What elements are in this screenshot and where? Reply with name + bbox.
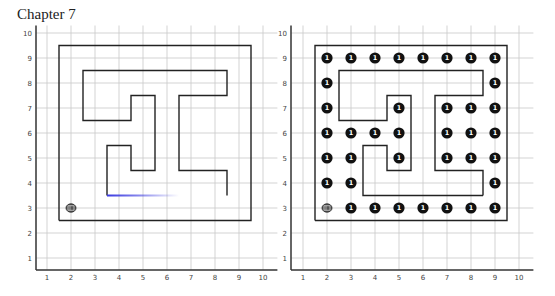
token: 1 (321, 77, 332, 88)
y-tick-label: 5 (283, 155, 287, 163)
token: 1 (465, 102, 476, 113)
x-tick-label: 3 (349, 274, 353, 282)
x-tick-label: 4 (117, 274, 122, 282)
x-tick-label: 10 (515, 274, 524, 282)
svg-text:1: 1 (325, 54, 330, 62)
svg-text:1: 1 (373, 54, 378, 62)
svg-text:1: 1 (469, 104, 474, 112)
svg-text:1: 1 (445, 129, 450, 137)
token: 1 (489, 127, 500, 138)
token: 1 (393, 52, 404, 63)
x-tick-label: 5 (397, 274, 401, 282)
y-tick-label: 1 (283, 255, 287, 263)
y-tick-label: 6 (28, 130, 33, 138)
token: 1 (489, 77, 500, 88)
svg-text:1: 1 (469, 54, 474, 62)
svg-text:1: 1 (349, 179, 354, 187)
y-tick-label: 6 (283, 130, 288, 138)
token: 1 (345, 127, 356, 138)
svg-text:1: 1 (469, 154, 474, 162)
svg-text:1: 1 (421, 204, 426, 212)
svg-text:1: 1 (421, 54, 426, 62)
y-tick-label: 7 (28, 105, 32, 113)
svg-text:1: 1 (325, 154, 330, 162)
y-tick-label: 10 (23, 30, 32, 38)
x-tick-label: 1 (45, 274, 49, 282)
svg-text:1: 1 (349, 154, 354, 162)
maze-figure: 1234567891012345678910 12345678910123456… (0, 0, 555, 296)
token: 1 (345, 177, 356, 188)
token: 1 (369, 202, 380, 213)
token: 1 (441, 52, 452, 63)
token: 1 (393, 127, 404, 138)
token: 1 (345, 202, 356, 213)
svg-text:1: 1 (493, 79, 498, 87)
token: 1 (345, 152, 356, 163)
svg-text:1: 1 (469, 129, 474, 137)
x-tick-label: 8 (213, 274, 217, 282)
y-tick-label: 2 (28, 230, 32, 238)
svg-text:1: 1 (373, 204, 378, 212)
token: 1 (465, 52, 476, 63)
token: 1 (465, 202, 476, 213)
svg-text:1: 1 (397, 54, 402, 62)
svg-text:1: 1 (349, 204, 354, 212)
token: 1 (393, 152, 404, 163)
x-tick-label: 1 (301, 274, 305, 282)
y-tick-label: 3 (28, 205, 32, 213)
x-tick-label: 5 (141, 274, 145, 282)
y-tick-label: 10 (278, 30, 287, 38)
svg-text:1: 1 (493, 129, 498, 137)
robot-trail (107, 195, 179, 197)
x-tick-label: 6 (421, 274, 426, 282)
token: 1 (321, 127, 332, 138)
token: 1 (369, 127, 380, 138)
x-tick-label: 7 (445, 274, 449, 282)
token: 1 (441, 127, 452, 138)
x-tick-label: 10 (259, 274, 268, 282)
svg-text:1: 1 (349, 54, 354, 62)
token: 1 (321, 102, 332, 113)
robot-icon (66, 204, 76, 212)
y-tick-label: 5 (28, 155, 32, 163)
svg-text:1: 1 (493, 179, 498, 187)
y-tick-label: 1 (28, 255, 32, 263)
y-tick-label: 9 (283, 55, 287, 63)
svg-text:1: 1 (325, 79, 330, 87)
x-tick-label: 9 (493, 274, 497, 282)
token: 1 (489, 102, 500, 113)
svg-text:1: 1 (325, 129, 330, 137)
svg-text:1: 1 (445, 204, 450, 212)
token: 1 (369, 52, 380, 63)
token: 1 (345, 52, 356, 63)
y-tick-label: 4 (28, 180, 33, 188)
x-tick-label: 7 (189, 274, 193, 282)
y-tick-label: 2 (283, 230, 287, 238)
token: 1 (417, 202, 428, 213)
svg-text:1: 1 (445, 54, 450, 62)
y-tick-label: 8 (28, 80, 32, 88)
token: 1 (441, 102, 452, 113)
svg-text:1: 1 (493, 54, 498, 62)
x-tick-label: 2 (325, 274, 329, 282)
y-tick-label: 7 (283, 105, 287, 113)
token: 1 (489, 52, 500, 63)
svg-text:1: 1 (397, 204, 402, 212)
token: 1 (441, 202, 452, 213)
svg-text:1: 1 (325, 104, 330, 112)
svg-text:1: 1 (493, 204, 498, 212)
svg-text:1: 1 (469, 204, 474, 212)
maze-grid-right: 1234567891012345678910111111111111111111… (278, 26, 533, 283)
x-tick-label: 9 (237, 274, 241, 282)
x-tick-label: 6 (165, 274, 170, 282)
y-tick-label: 9 (28, 55, 32, 63)
token: 1 (321, 177, 332, 188)
svg-text:1: 1 (373, 129, 378, 137)
svg-text:1: 1 (493, 104, 498, 112)
y-tick-label: 4 (283, 180, 288, 188)
svg-text:1: 1 (445, 154, 450, 162)
y-tick-label: 8 (283, 80, 287, 88)
y-tick-label: 3 (283, 205, 287, 213)
svg-text:1: 1 (397, 129, 402, 137)
svg-text:1: 1 (445, 104, 450, 112)
